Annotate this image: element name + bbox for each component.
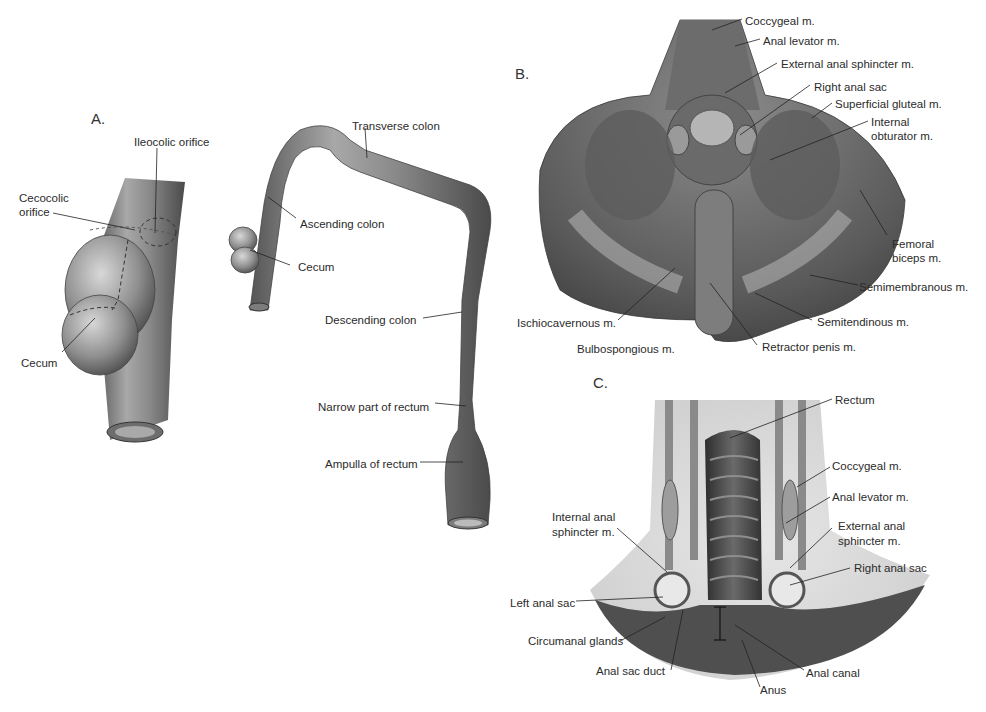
- label-b-anal-levator: Anal levator m.: [763, 34, 840, 48]
- label-b-internal-obturator-line1: Internal: [871, 115, 909, 129]
- label-b-ischiocavernous: Ischiocavernous m.: [517, 316, 616, 330]
- label-c-anal-canal: Anal canal: [806, 666, 860, 680]
- label-c-right-anal-sac: Right anal sac: [854, 561, 927, 575]
- label-b-retractor-penis: Retractor penis m.: [762, 340, 856, 354]
- label-c-external-anal-sphincter-line2: sphincter m.: [838, 534, 901, 548]
- label-b-semitendinous: Semitendinous m.: [817, 315, 909, 329]
- label-cecocolic-orifice-line1: Cecocolic: [19, 191, 69, 205]
- panel-c-letter: C.: [593, 374, 608, 391]
- label-ampulla-rectum: Ampulla of rectum: [325, 457, 418, 471]
- label-c-internal-anal-sphincter-line2: sphincter m.: [552, 525, 615, 539]
- panel-a-letter: A.: [91, 110, 105, 127]
- label-c-external-anal-sphincter-line1: External anal: [838, 519, 905, 533]
- label-c-coccygeal: Coccygeal m.: [832, 459, 902, 473]
- label-transverse-colon: Transverse colon: [352, 119, 440, 133]
- label-ileocolic-orifice: Ileocolic orifice: [134, 135, 209, 149]
- label-b-semimembranous: Semimembranous m.: [859, 280, 968, 294]
- label-c-rectum: Rectum: [835, 393, 875, 407]
- label-c-circumanal-glands: Circumanal glands: [528, 634, 623, 648]
- label-cecum-detail: Cecum: [21, 356, 57, 370]
- label-cecocolic-orifice-line2: orifice: [19, 205, 50, 219]
- label-b-femoral-biceps-line1: Femoral: [892, 237, 934, 251]
- label-b-superficial-gluteal: Superficial gluteal m.: [835, 97, 942, 111]
- label-c-anal-sac-duct: Anal sac duct: [596, 664, 665, 678]
- label-b-external-anal-sphincter: External anal sphincter m.: [781, 57, 914, 71]
- label-b-right-anal-sac: Right anal sac: [814, 80, 887, 94]
- label-ascending-colon: Ascending colon: [300, 217, 384, 231]
- anatomy-figure: A. Ileocolic orifice Cecocolic orifice C…: [0, 0, 986, 712]
- label-descending-colon: Descending colon: [325, 313, 416, 327]
- label-b-internal-obturator-line2: obturator m.: [871, 129, 933, 143]
- label-b-coccygeal: Coccygeal m.: [745, 14, 815, 28]
- cecum-detail-illustration: [62, 178, 185, 442]
- label-c-anus: Anus: [760, 683, 786, 697]
- panel-b-letter: B.: [515, 65, 529, 82]
- label-b-femoral-biceps-line2: biceps m.: [892, 251, 941, 265]
- label-cecum: Cecum: [298, 260, 334, 274]
- label-c-left-anal-sac: Left anal sac: [510, 596, 575, 610]
- label-c-anal-levator: Anal levator m.: [832, 490, 909, 504]
- label-b-bulbospongious: Bulbospongious m.: [577, 342, 675, 356]
- label-c-internal-anal-sphincter-line1: Internal anal: [552, 510, 615, 524]
- label-narrow-part-rectum: Narrow part of rectum: [318, 400, 429, 414]
